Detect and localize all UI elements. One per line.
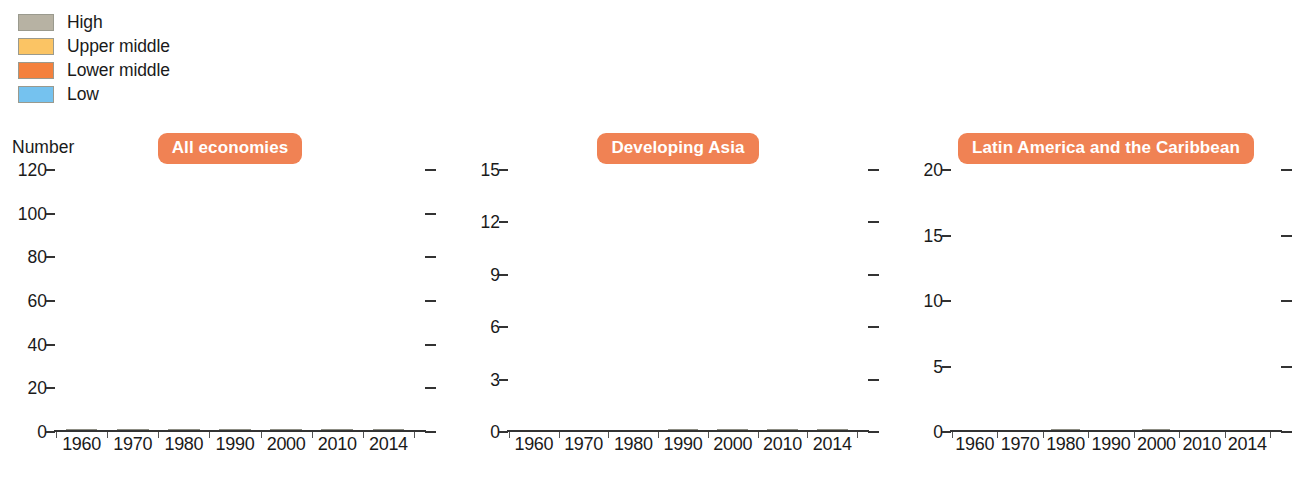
y-axis-tick-mark-right [425,213,436,215]
y-axis-tick-mark [499,274,508,276]
legend-item-upper-middle: Upper middle [18,34,318,58]
y-axis-tick-mark [942,366,951,368]
bar-slot [509,170,559,432]
legend-label-upper-middle: Upper middle [67,36,170,57]
bar-slot [261,170,312,432]
bar-slot [363,170,414,432]
bar-slot [608,170,658,432]
bar-slot [1179,170,1224,432]
y-axis-tick-mark-right [425,300,436,302]
plot-inner: 020406080100120 [56,170,414,432]
bar-slot [1088,170,1133,432]
y-axis-tick-mark-right [868,326,879,328]
y-axis-tick-mark-right [1281,366,1292,368]
x-axis-tick-mark [807,432,808,438]
bar-slot [56,170,107,432]
bar-slot [952,170,997,432]
x-axis-tick-mark [708,432,709,438]
bar-slot [708,170,758,432]
x-axis-tick-mark [209,432,210,438]
x-axis-labels: 1960197019801990200020102014 [952,434,1270,458]
bar-slot [158,170,209,432]
x-axis-baseline [54,430,426,432]
y-axis-tick-mark-right [425,256,436,258]
y-axis-tick-mark [942,300,951,302]
x-axis-tick-label: 1990 [1088,434,1133,458]
x-axis-tick-mark [414,432,415,438]
x-axis-tick-label: 1970 [107,434,158,458]
bar-slot [758,170,808,432]
legend-label-lower-middle: Lower middle [67,60,170,81]
y-axis-tick-mark-right [1281,300,1292,302]
y-axis-tick-mark [46,256,55,258]
x-axis-tick-mark [1225,432,1226,438]
y-axis-tick-mark-right [868,221,879,223]
x-axis-tick-label: 1990 [658,434,708,458]
y-axis-unit-label: Number [12,137,74,158]
y-axis-tick-mark-right [425,169,436,171]
x-axis-baseline [950,430,1282,432]
panel-title-container: Latin America and the Caribbean [906,133,1306,164]
x-axis-baseline [507,430,869,432]
bar-group [952,170,1270,432]
x-axis-tick-mark [509,432,510,438]
plot-inner: 05101520 [952,170,1270,432]
y-axis-tick-mark-right [425,344,436,346]
x-axis-tick-label: 2000 [1134,434,1179,458]
legend-item-low: Low [18,82,318,106]
x-axis-tick-mark [608,432,609,438]
x-axis-tick-mark [363,432,364,438]
x-axis-tick-label: 2014 [363,434,414,458]
y-axis-tick-mark [46,300,55,302]
y-axis-tick-mark-right [1281,169,1292,171]
x-axis-tick-mark [1043,432,1044,438]
x-axis-tick-label: 1980 [608,434,658,458]
bar-slot [997,170,1042,432]
legend-swatch-low [18,86,54,103]
x-axis-tick-label: 1970 [997,434,1042,458]
bar-slot [1134,170,1179,432]
legend-swatch-high [18,14,54,31]
x-axis-tick-label: 2014 [807,434,857,458]
x-axis-tick-mark [107,432,108,438]
x-axis-tick-mark [261,432,262,438]
legend-label-high: High [67,12,103,33]
bar-slot [209,170,260,432]
y-axis-tick-mark-right [425,387,436,389]
bar-slot [658,170,708,432]
y-axis-tick-mark [46,169,55,171]
x-axis-tick-mark [658,432,659,438]
y-axis-tick-mark-right [1281,235,1292,237]
x-axis-tick-mark [559,432,560,438]
legend-label-low: Low [67,84,99,105]
x-axis-tick-mark [758,432,759,438]
x-axis-tick-mark [1270,432,1271,438]
bar-slot [807,170,857,432]
x-axis-tick-label: 2010 [312,434,363,458]
x-axis-tick-label: 2010 [758,434,808,458]
y-axis-tick-mark-right [868,274,879,276]
y-axis-tick-mark [46,213,55,215]
x-axis-tick-mark [1134,432,1135,438]
legend-item-high: High [18,10,318,34]
y-axis-tick-mark-right [868,169,879,171]
bar-slot [1043,170,1088,432]
x-axis-tick-label: 2010 [1179,434,1224,458]
x-axis-tick-label: 1980 [1043,434,1088,458]
x-axis-tick-label: 2000 [708,434,758,458]
x-axis-tick-label: 1990 [209,434,260,458]
x-axis-labels: 1960197019801990200020102014 [509,434,857,458]
plot-inner: 03691215 [509,170,857,432]
bar-slot [559,170,609,432]
x-axis-tick-label: 1980 [158,434,209,458]
x-axis-labels: 1960197019801990200020102014 [56,434,414,458]
plot-area: 020406080100120 196019701980199020002010… [10,170,450,458]
y-axis-tick-mark [46,387,55,389]
legend-item-lower-middle: Lower middle [18,58,318,82]
bar-group [56,170,414,432]
x-axis-tick-mark [56,432,57,438]
y-axis-tick-mark [46,344,55,346]
x-axis-tick-mark [997,432,998,438]
bar-slot [312,170,363,432]
y-axis-tick-mark [499,169,508,171]
